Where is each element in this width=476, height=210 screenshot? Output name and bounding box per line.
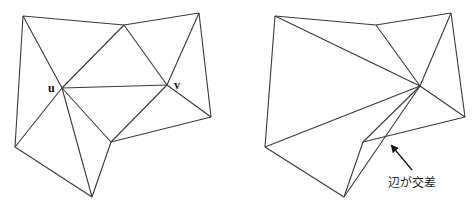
right-edge-A-V bbox=[275, 16, 420, 86]
arrow-icon bbox=[392, 146, 412, 170]
left-edge-B-v bbox=[124, 25, 167, 85]
right-edge-C-F bbox=[451, 13, 465, 117]
left-edge-D-A bbox=[15, 16, 23, 147]
edge-crossing-label: 辺が交差 bbox=[388, 175, 436, 190]
right-edge-E-G bbox=[344, 142, 363, 197]
left-edge-u-D bbox=[15, 88, 62, 147]
left-edge-u-v bbox=[62, 85, 167, 88]
right-edge-B-C bbox=[376, 13, 451, 25]
triangulation-diagrams: u v 辺が交差 bbox=[0, 0, 476, 210]
left-edge-A-u bbox=[23, 16, 62, 88]
left-edge-A-B bbox=[23, 16, 124, 25]
left-edge-u-B bbox=[62, 25, 124, 88]
left-edge-v-C bbox=[167, 13, 199, 85]
right-edge-V-E bbox=[363, 86, 420, 142]
right-edge-V-F bbox=[420, 86, 465, 117]
right-edge-C-V bbox=[420, 13, 451, 86]
right-edge-B-V bbox=[376, 25, 420, 86]
crossing-annotation: 辺が交差 bbox=[388, 146, 436, 190]
right-triangulation bbox=[265, 13, 465, 197]
right-edge-G-D bbox=[265, 147, 344, 197]
right-edge-F-E bbox=[363, 117, 465, 142]
right-edge-V-D bbox=[265, 86, 420, 147]
left-edge-v-E bbox=[111, 85, 167, 142]
left-edge-B-C bbox=[124, 13, 199, 25]
left-triangulation bbox=[15, 13, 211, 197]
left-edge-F-E bbox=[111, 117, 211, 142]
vertex-label-v: v bbox=[174, 78, 180, 92]
vertex-label-u: u bbox=[48, 81, 55, 95]
left-edge-C-F bbox=[199, 13, 211, 117]
left-edge-E-G bbox=[92, 142, 111, 197]
right-edge-D-A bbox=[265, 16, 275, 147]
